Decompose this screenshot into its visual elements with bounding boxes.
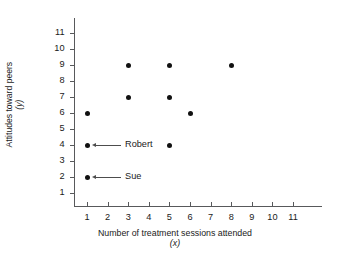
x-tick-mark [128,202,129,207]
y-axis-title-line2: (y) [15,62,25,148]
y-tick-mark [70,129,75,130]
scatter-plot-figure: Attitudes toward peers (y) 1234567891011… [0,0,350,268]
annotation-arrowhead-icon [92,175,96,179]
data-point [167,63,172,68]
x-tick-label: 11 [283,213,303,222]
data-point [85,111,90,116]
y-tick-label: 7 [45,92,65,101]
x-tick-mark [293,202,294,207]
annotation-label: Sue [125,172,141,181]
y-tick-mark [70,145,75,146]
data-point [85,175,90,180]
x-tick-mark [231,202,232,207]
y-tick-label: 10 [45,44,65,53]
x-tick-label: 7 [201,213,221,222]
x-tick-label: 9 [242,213,262,222]
x-tick-label: 4 [139,213,159,222]
x-tick-mark [169,202,170,207]
annotation-arrowhead-icon [92,143,96,147]
x-tick-label: 8 [221,213,241,222]
x-tick-mark [272,202,273,207]
x-tick-mark [211,202,212,207]
y-tick-label: 4 [45,140,65,149]
y-tick-mark [70,193,75,194]
y-tick-mark [70,33,75,34]
y-tick-mark [70,97,75,98]
y-tick-label: 9 [45,60,65,69]
x-axis-spine [74,206,322,207]
x-tick-label: 6 [180,213,200,222]
x-tick-mark [190,202,191,207]
y-tick-label: 1 [45,188,65,197]
y-tick-mark [70,65,75,66]
data-point [167,95,172,100]
y-tick-label: 6 [45,108,65,117]
x-tick-mark [149,202,150,207]
y-tick-mark [70,113,75,114]
x-axis-title-line1: Number of treatment sessions attended [0,228,350,239]
x-tick-mark [108,202,109,207]
y-tick-label: 2 [45,172,65,181]
y-tick-mark [70,161,75,162]
y-axis-title: Attitudes toward peers (y) [0,0,30,210]
y-tick-label: 5 [45,124,65,133]
x-tick-label: 1 [77,213,97,222]
x-axis-title-line2: (x) [0,238,350,249]
y-tick-label: 8 [45,76,65,85]
x-tick-label: 5 [159,213,179,222]
annotation-label: Robert [125,140,153,149]
y-tick-mark [70,49,75,50]
x-tick-label: 3 [118,213,138,222]
annotation-leader-line [96,145,121,146]
y-tick-label: 3 [45,156,65,165]
y-tick-label: 11 [45,28,65,37]
data-point [229,63,234,68]
y-tick-mark [70,177,75,178]
x-tick-mark [87,202,88,207]
data-point [167,143,172,148]
x-tick-label: 10 [262,213,282,222]
data-point [126,95,131,100]
data-point [188,111,193,116]
x-axis-title: Number of treatment sessions attended (x… [0,228,350,250]
y-tick-mark [70,81,75,82]
y-axis-title-text: Attitudes toward peers (y) [5,62,24,148]
annotation-leader-line [96,177,121,178]
x-tick-mark [252,202,253,207]
data-point [126,63,131,68]
data-point [85,143,90,148]
x-tick-label: 2 [98,213,118,222]
